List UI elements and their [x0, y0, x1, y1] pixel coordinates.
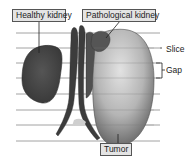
slice-label: Slice	[166, 44, 184, 54]
healthy-kidney-label: Healthy kidney	[12, 9, 66, 22]
pathological-kidney-label: Pathological kidney	[82, 9, 156, 22]
tumor-label: Tumor	[100, 143, 132, 156]
diagram-canvas	[0, 0, 192, 158]
healthy-kidney-shape	[22, 45, 62, 103]
gap-label: Gap	[166, 65, 182, 75]
kidney-slice-diagram: Healthy kidney Pathological kidney Slice…	[0, 0, 192, 158]
